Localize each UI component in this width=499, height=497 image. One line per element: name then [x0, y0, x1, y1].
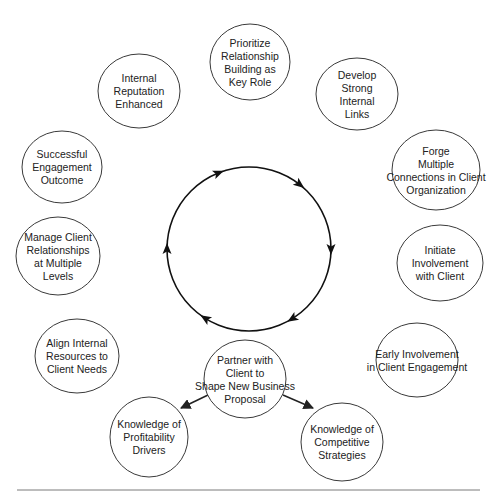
node-label-line: Internal [339, 95, 374, 107]
node-label-line: Partner with [217, 354, 273, 366]
node-label-line: Successful [37, 148, 88, 160]
node-label-line: Enhanced [115, 98, 162, 110]
node-label-line: Levels [43, 270, 73, 282]
node-label-line: Relationships [26, 244, 89, 256]
node-label-line: in Client Engagement [367, 361, 467, 373]
node-label-line: Relationship [221, 50, 279, 62]
node-label-line: Strategies [318, 449, 365, 461]
branch-arrow-profitability [181, 395, 208, 408]
node-label-line: Forge [422, 145, 450, 157]
node-label-line: Client Needs [47, 363, 107, 375]
branch-node-competitive: Knowledge ofCompetitiveStrategies [301, 403, 383, 481]
cycle-nodes: PrioritizeRelationshipBuilding asKey Rol… [16, 24, 486, 418]
cycle-node-forge: ForgeMultipleConnections in ClientOrgani… [386, 130, 485, 210]
node-label-line: Building as [224, 63, 275, 75]
node-label-line: Shape New Business [195, 380, 295, 392]
cycle-node-manage: Manage ClientRelationshipsat MultipleLev… [16, 217, 100, 295]
node-label-line: Initiate [425, 244, 456, 256]
node-label-line: Client to [226, 367, 265, 379]
node-label-line: with Client [415, 270, 465, 282]
cycle-node-develop: DevelopStrongInternalLinks [316, 58, 398, 130]
node-label-line: Strong [342, 82, 373, 94]
node-label-line: Knowledge of [117, 418, 181, 430]
node-label-line: Resources to [46, 350, 108, 362]
node-label-line: Key Role [229, 76, 272, 88]
node-label-line: Multiple [418, 158, 454, 170]
node-label-line: Internal [121, 72, 156, 84]
node-label-line: Involvement [412, 257, 469, 269]
cycle-ring-arrows [163, 167, 336, 326]
cycle-node-initiate: InitiateInvolvementwith Client [397, 225, 483, 301]
cycle-node-prioritize: PrioritizeRelationshipBuilding asKey Rol… [210, 24, 290, 100]
node-label-line: Align Internal [46, 337, 107, 349]
cycle-diagram: PrioritizeRelationshipBuilding asKey Rol… [0, 0, 499, 497]
node-label-line: Competitive [314, 436, 370, 448]
node-label-line: Drivers [132, 444, 165, 456]
cycle-node-align: Align InternalResources toClient Needs [35, 319, 119, 393]
node-label-line: Organization [406, 184, 466, 196]
cycle-node-successful: SuccessfulEngagementOutcome [22, 131, 102, 203]
node-label-line: Prioritize [230, 37, 271, 49]
node-label-line: Knowledge of [310, 423, 374, 435]
cycle-node-early: Early Involvementin Client Engagement [367, 323, 467, 397]
node-label-line: Engagement [32, 161, 92, 173]
arrowhead-icon [212, 167, 226, 179]
node-label-line: Outcome [41, 174, 84, 186]
node-label-line: Links [345, 108, 370, 120]
node-label-line: at Multiple [34, 257, 82, 269]
node-label-line: Connections in Client [386, 171, 485, 183]
node-label-line: Develop [338, 69, 377, 81]
cycle-ring [163, 167, 336, 331]
node-label-line: Reputation [114, 85, 165, 97]
node-label-line: Proposal [224, 393, 265, 405]
arrowhead-icon [285, 312, 299, 325]
arrowhead-icon [198, 312, 212, 325]
node-label-line: Early Involvement [375, 348, 459, 360]
cycle-ring-circle [167, 167, 331, 331]
node-label-line: Profitability [123, 431, 175, 443]
branch-node-profitability: Knowledge ofProfitabilityDrivers [110, 397, 188, 477]
cycle-node-partner: Partner withClient toShape New BusinessP… [195, 340, 295, 418]
cycle-node-reputation: InternalReputationEnhanced [98, 54, 180, 128]
node-label-line: Manage Client [24, 231, 92, 243]
branch-arrow-competitive [283, 395, 313, 408]
